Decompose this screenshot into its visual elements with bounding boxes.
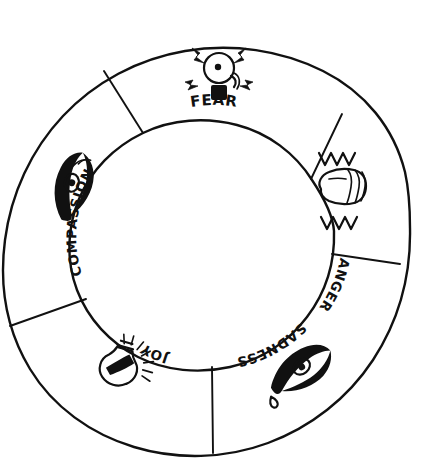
segment-compassion[interactable] [0, 71, 143, 326]
segment-joy[interactable] [10, 299, 213, 454]
wheel-canvas: FEAR ANGER SADNESS JOY COMPASSION [0, 0, 427, 473]
segment-fear[interactable] [104, 48, 342, 179]
segment-hit-areas[interactable] [0, 48, 400, 454]
emotion-wheel-diagram: FEAR ANGER SADNESS JOY COMPASSION [0, 0, 427, 473]
segment-sadness[interactable] [212, 254, 400, 453]
